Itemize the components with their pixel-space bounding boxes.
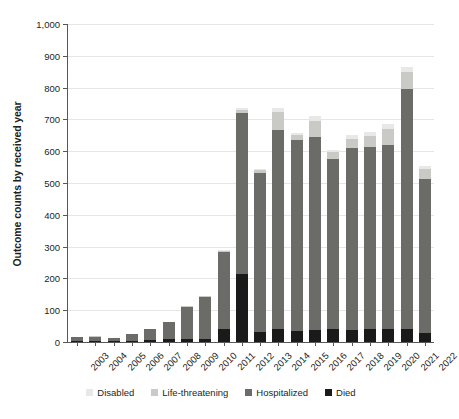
y-tick-label: 300	[44, 241, 60, 252]
bar-stack	[346, 135, 358, 342]
bar-stack	[218, 250, 230, 342]
bar-segment	[126, 334, 138, 341]
y-tick-label: 900	[44, 50, 60, 61]
bar-segment	[254, 332, 266, 342]
bar-segment	[218, 252, 230, 329]
bar-stack	[254, 169, 266, 342]
bar-segment	[272, 329, 284, 342]
bar-stack	[181, 306, 193, 342]
legend-item[interactable]: Died	[325, 387, 356, 398]
bar-stack	[199, 296, 211, 342]
x-tick-mark	[242, 342, 243, 346]
bar-stack	[419, 166, 431, 342]
x-tick-mark	[260, 342, 261, 346]
bar-stack	[291, 133, 303, 342]
bar-segment	[144, 329, 156, 340]
x-tick-mark	[205, 342, 206, 346]
x-tick-label: 2006	[143, 350, 166, 373]
x-tick-label: 2015	[308, 350, 331, 373]
y-tick-label: 100	[44, 305, 60, 316]
x-tick-label: 2005	[125, 350, 148, 373]
bar-stack	[382, 124, 394, 342]
bar-segment	[419, 169, 431, 179]
bar-stack	[327, 150, 339, 342]
x-tick-mark	[77, 342, 78, 346]
legend-label: Life-threatening	[162, 387, 228, 398]
y-tick-mark	[63, 342, 68, 343]
x-tick-label: 2009	[198, 350, 221, 373]
x-tick-mark	[333, 342, 334, 346]
legend-swatch-icon	[245, 389, 252, 396]
legend-label: Died	[336, 387, 356, 398]
bar-segment	[419, 179, 431, 333]
x-tick-label: 2007	[162, 350, 185, 373]
legend-item[interactable]: Life-threatening	[151, 387, 228, 398]
bar-stack	[364, 132, 376, 342]
bar-segment	[401, 329, 413, 342]
bar-segment	[401, 89, 413, 329]
bar-stack	[401, 67, 413, 342]
x-tick-mark	[150, 342, 151, 346]
bar-stack	[236, 108, 248, 342]
bar-segment	[236, 113, 248, 274]
bar-stack	[126, 334, 138, 342]
bar-segment	[218, 329, 230, 342]
bar-segment	[419, 333, 431, 342]
x-tick-mark	[169, 342, 170, 346]
x-tick-mark	[114, 342, 115, 346]
bar-segment	[382, 145, 394, 328]
x-tick-mark	[132, 342, 133, 346]
legend-swatch-icon	[86, 389, 93, 396]
legend-swatch-icon	[151, 389, 158, 396]
legend-item[interactable]: Hospitalized	[245, 387, 308, 398]
bar-segment	[346, 139, 358, 149]
bar-segment	[382, 129, 394, 145]
x-tick-mark	[370, 342, 371, 346]
bar-segment	[346, 148, 358, 330]
x-tick-mark	[407, 342, 408, 346]
x-tick-mark	[224, 342, 225, 346]
bar-segment	[327, 329, 339, 342]
x-tick-label: 2011	[235, 350, 257, 372]
x-tick-mark	[352, 342, 353, 346]
bar-segment	[163, 322, 175, 339]
y-tick-label: 500	[44, 178, 60, 189]
bar-segment	[309, 330, 321, 342]
bar-segment	[254, 173, 266, 332]
x-tick-mark	[187, 342, 188, 346]
bar-segment	[272, 112, 284, 129]
bar-segment	[236, 274, 248, 342]
bar-segment	[199, 297, 211, 339]
bar-segment	[364, 329, 376, 342]
bar-segment	[364, 147, 376, 329]
x-tick-label: 2021	[418, 350, 441, 373]
y-tick-label: 0	[55, 337, 60, 348]
x-tick-label: 2008	[180, 350, 203, 373]
bar-segment	[309, 137, 321, 330]
bar-stack	[144, 329, 156, 342]
x-tick-label: 2010	[216, 350, 239, 373]
bar-segment	[272, 130, 284, 330]
y-axis-title: Outcome counts by received year	[11, 89, 23, 279]
legend-label: Hospitalized	[256, 387, 308, 398]
y-tick-label: 600	[44, 146, 60, 157]
y-tick-label: 700	[44, 114, 60, 125]
legend-swatch-icon	[325, 389, 332, 396]
bar-segment	[401, 72, 413, 89]
x-tick-label: 2022	[436, 350, 459, 373]
legend-item[interactable]: Disabled	[86, 387, 134, 398]
y-tick-label: 200	[44, 273, 60, 284]
x-tick-label: 2013	[271, 350, 294, 373]
x-tick-mark	[315, 342, 316, 346]
x-tick-label: 2004	[107, 350, 130, 373]
x-tick-label: 2016	[326, 350, 349, 373]
x-tick-label: 2014	[290, 350, 313, 373]
bar-segment	[309, 121, 321, 137]
x-tick-mark	[297, 342, 298, 346]
x-tick-label: 2017	[345, 350, 368, 373]
plot-area: 01002003004005006007008009001,000 200320…	[68, 24, 434, 342]
bar-segment	[346, 330, 358, 342]
bar-segment	[327, 159, 339, 330]
chart-legend: DisabledLife-threateningHospitalizedDied	[0, 387, 442, 398]
bar-segment	[291, 140, 303, 331]
